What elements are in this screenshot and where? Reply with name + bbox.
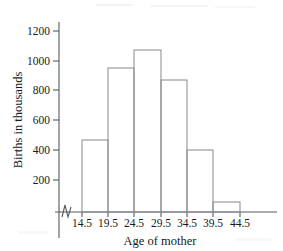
y-tick-label: 1200	[27, 25, 50, 37]
paper-smudges	[18, 4, 271, 241]
x-tick-label: 24.5	[124, 217, 144, 229]
histogram-chart: 1200 1000 800 600 400 200	[0, 0, 283, 251]
x-tick-label: 19.5	[98, 217, 118, 229]
x-tick-label: 29.5	[151, 217, 171, 229]
x-axis: 14.5 19.5 24.5 29.5 34.5 39.5 44.5	[55, 205, 277, 229]
y-tick-label: 600	[33, 114, 51, 126]
y-tick-label: 200	[33, 174, 51, 186]
y-tick-label: 1000	[27, 55, 50, 67]
y-tick-1200: 1200	[27, 25, 59, 37]
bar-34.5-39.5	[187, 150, 213, 212]
x-tick-label: 44.5	[230, 217, 250, 229]
y-axis-title: Births in thousands	[11, 72, 25, 169]
bar-29.5-34.5	[161, 80, 187, 212]
x-axis-title: Age of mother	[124, 234, 198, 248]
x-tick-label: 14.5	[72, 217, 92, 229]
bar-24.5-29.5	[134, 50, 161, 212]
y-tick-400: 400	[33, 144, 59, 156]
x-tick-label: 39.5	[203, 217, 223, 229]
y-tick-label: 400	[33, 144, 51, 156]
y-tick-1000: 1000	[27, 55, 59, 67]
bars-group	[82, 50, 240, 212]
axis-break-icon	[62, 205, 71, 217]
y-tick-200: 200	[33, 174, 59, 186]
y-axis: 1200 1000 800 600 400 200	[27, 22, 59, 238]
y-axis-title-group: Births in thousands	[11, 72, 25, 169]
bar-14.5-19.5	[82, 140, 108, 212]
chart-canvas: 1200 1000 800 600 400 200	[0, 0, 283, 251]
bar-39.5-44.5	[213, 202, 240, 212]
bar-19.5-24.5	[108, 68, 134, 212]
x-tick-label: 34.5	[177, 217, 197, 229]
y-tick-label: 800	[33, 84, 51, 96]
y-tick-600: 600	[33, 114, 59, 126]
y-tick-800: 800	[33, 84, 59, 96]
